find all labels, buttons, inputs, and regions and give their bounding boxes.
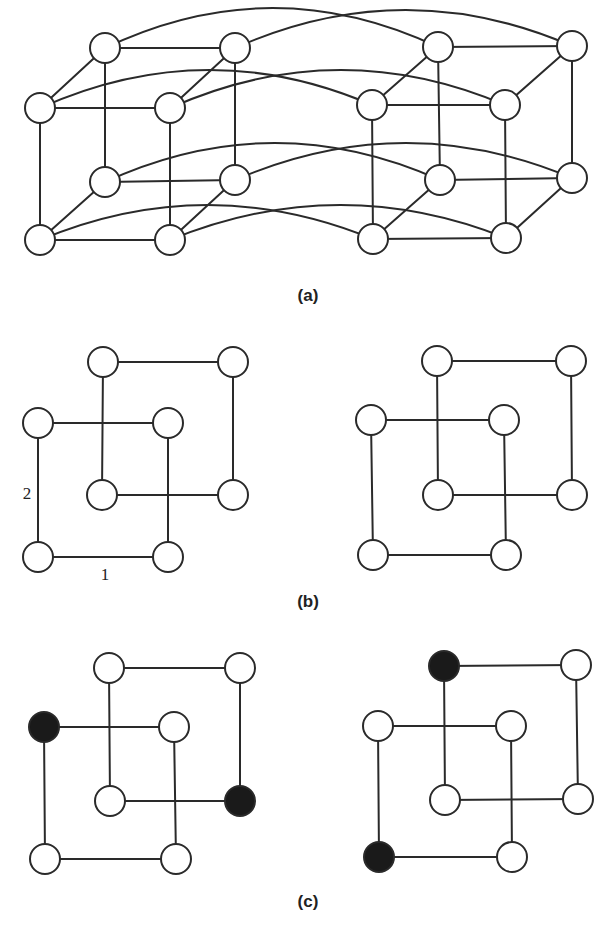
node — [358, 540, 388, 570]
node — [497, 842, 527, 872]
node — [425, 165, 455, 195]
graph-edge — [438, 46, 572, 47]
graph-curved-edge — [170, 70, 505, 108]
node — [25, 93, 55, 123]
cube-1: 21 — [23, 347, 248, 584]
edge-label: 2 — [23, 484, 32, 503]
edge-label: 1 — [101, 565, 110, 584]
graph-curved-edge — [235, 143, 572, 180]
graph-edge — [174, 727, 176, 859]
filled-node — [29, 712, 59, 742]
graph-curved-edge — [40, 205, 373, 240]
panel-c-two-cubes-marked — [29, 650, 593, 874]
node — [557, 480, 587, 510]
node — [90, 167, 120, 197]
cube-1 — [29, 653, 255, 874]
node — [88, 347, 118, 377]
node — [496, 711, 526, 741]
graph-edge — [372, 105, 373, 239]
graph-edge — [576, 665, 578, 799]
node — [220, 33, 250, 63]
filled-node — [364, 842, 394, 872]
caption-b: (b) — [297, 592, 319, 611]
node — [357, 90, 387, 120]
filled-node — [429, 651, 459, 681]
node — [218, 480, 248, 510]
node — [153, 408, 183, 438]
node — [358, 224, 388, 254]
node — [225, 653, 255, 683]
node — [556, 346, 586, 376]
caption-c: (c) — [298, 892, 319, 911]
panel-b-two-cubes: 21 — [23, 346, 587, 584]
node — [363, 711, 393, 741]
node — [422, 346, 452, 376]
graph-edge — [102, 362, 103, 495]
figure-canvas: 21 (a) (b) (c) — [0, 0, 613, 926]
node — [153, 542, 183, 572]
node — [25, 225, 55, 255]
node — [220, 165, 250, 195]
node — [218, 347, 248, 377]
node — [94, 653, 124, 683]
graph-edge — [109, 668, 110, 801]
node — [563, 784, 593, 814]
node — [423, 32, 453, 62]
node — [23, 408, 53, 438]
graph-edge — [44, 727, 45, 859]
graph-edge — [378, 726, 379, 857]
node — [161, 844, 191, 874]
graph-edge — [373, 238, 506, 239]
graph-edge — [504, 420, 506, 555]
node — [490, 90, 520, 120]
node — [23, 542, 53, 572]
node — [87, 480, 117, 510]
panel-a-hypercube-4d — [25, 8, 587, 255]
graph-edge — [511, 726, 512, 857]
cube-2 — [356, 346, 587, 570]
node — [356, 405, 386, 435]
node — [155, 225, 185, 255]
node — [90, 33, 120, 63]
node — [423, 480, 453, 510]
node — [557, 163, 587, 193]
graph-curved-edge — [105, 8, 438, 48]
node — [491, 540, 521, 570]
node — [30, 844, 60, 874]
node — [430, 785, 460, 815]
node — [557, 31, 587, 61]
node — [159, 712, 189, 742]
node — [491, 223, 521, 253]
cube-2 — [363, 650, 593, 872]
graph-edge — [371, 420, 373, 555]
filled-node — [225, 786, 255, 816]
graph-edge — [437, 361, 438, 495]
graph-edge — [444, 666, 445, 800]
node — [489, 405, 519, 435]
caption-a: (a) — [298, 286, 319, 305]
graph-curved-edge — [235, 10, 572, 48]
node — [95, 786, 125, 816]
graph-edge — [571, 361, 572, 495]
graph-curved-edge — [170, 205, 506, 240]
node — [155, 93, 185, 123]
node — [561, 650, 591, 680]
graph-curved-edge — [105, 143, 440, 182]
graph-edge — [505, 105, 506, 238]
graph-edge — [438, 47, 440, 180]
graph-edge — [444, 665, 576, 666]
